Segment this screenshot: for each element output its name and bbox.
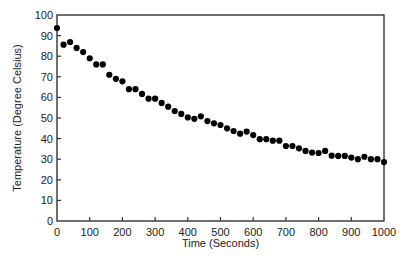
x-tick-label: 800 bbox=[309, 226, 327, 238]
data-point bbox=[113, 76, 119, 82]
data-point bbox=[74, 45, 80, 51]
data-point bbox=[198, 113, 204, 119]
data-point bbox=[217, 122, 223, 128]
data-point bbox=[87, 55, 93, 61]
y-tick-label: 80 bbox=[41, 50, 53, 62]
data-point bbox=[335, 153, 341, 159]
plot-frame bbox=[57, 15, 384, 221]
data-point bbox=[283, 143, 289, 149]
x-axis-title: Time (Seconds) bbox=[182, 237, 259, 249]
data-point bbox=[100, 61, 106, 67]
data-point bbox=[289, 143, 295, 149]
x-axis-ticks: 01002003004005006007008009001000 bbox=[54, 217, 396, 238]
data-point bbox=[355, 156, 361, 162]
data-points bbox=[54, 25, 387, 165]
data-point bbox=[191, 116, 197, 122]
data-point bbox=[237, 131, 243, 137]
y-tick-label: 30 bbox=[41, 153, 53, 165]
data-point bbox=[126, 86, 132, 92]
data-point bbox=[119, 78, 125, 84]
data-point bbox=[60, 42, 66, 48]
data-point bbox=[296, 145, 302, 151]
y-tick-label: 10 bbox=[41, 194, 53, 206]
data-point bbox=[329, 153, 335, 159]
data-point bbox=[374, 156, 380, 162]
y-tick-label: 90 bbox=[41, 30, 53, 42]
data-point bbox=[276, 138, 282, 144]
data-point bbox=[185, 114, 191, 120]
data-point bbox=[230, 128, 236, 134]
data-point bbox=[132, 86, 138, 92]
x-tick-label: 100 bbox=[81, 226, 99, 238]
y-axis-title: Temperature (Degree Celsius) bbox=[11, 44, 23, 191]
data-point bbox=[257, 136, 263, 142]
data-point bbox=[54, 25, 60, 31]
data-point bbox=[152, 96, 158, 102]
y-tick-label: 70 bbox=[41, 71, 53, 83]
data-point bbox=[250, 132, 256, 138]
data-point bbox=[159, 100, 165, 106]
data-point bbox=[139, 91, 145, 97]
x-tick-label: 1000 bbox=[372, 226, 396, 238]
data-point bbox=[178, 111, 184, 117]
data-point bbox=[348, 154, 354, 160]
data-point bbox=[309, 150, 315, 156]
data-point bbox=[204, 118, 210, 124]
y-tick-label: 60 bbox=[41, 91, 53, 103]
temperature-time-chart: 01002003004005006007008009001000 0102030… bbox=[0, 0, 406, 262]
y-tick-label: 40 bbox=[41, 133, 53, 145]
data-point bbox=[368, 156, 374, 162]
data-point bbox=[93, 61, 99, 67]
data-point bbox=[67, 39, 73, 45]
x-tick-label: 900 bbox=[342, 226, 360, 238]
data-point bbox=[270, 138, 276, 144]
data-point bbox=[211, 120, 217, 126]
data-point bbox=[302, 148, 308, 154]
x-tick-label: 0 bbox=[54, 226, 60, 238]
data-point bbox=[381, 159, 387, 165]
x-tick-label: 700 bbox=[277, 226, 295, 238]
data-point bbox=[316, 150, 322, 156]
data-point bbox=[361, 154, 367, 160]
data-point bbox=[224, 125, 230, 131]
data-point bbox=[342, 153, 348, 159]
x-tick-label: 300 bbox=[146, 226, 164, 238]
x-tick-label: 200 bbox=[113, 226, 131, 238]
y-tick-label: 100 bbox=[35, 9, 53, 21]
data-point bbox=[106, 72, 112, 78]
data-point bbox=[322, 148, 328, 154]
y-tick-label: 0 bbox=[47, 215, 53, 227]
data-point bbox=[244, 128, 250, 134]
data-point bbox=[172, 108, 178, 114]
data-point bbox=[165, 104, 171, 110]
data-point bbox=[263, 136, 269, 142]
plot-border bbox=[57, 15, 384, 221]
data-point bbox=[145, 96, 151, 102]
data-point bbox=[80, 49, 86, 55]
y-tick-label: 20 bbox=[41, 174, 53, 186]
y-tick-label: 50 bbox=[41, 112, 53, 124]
